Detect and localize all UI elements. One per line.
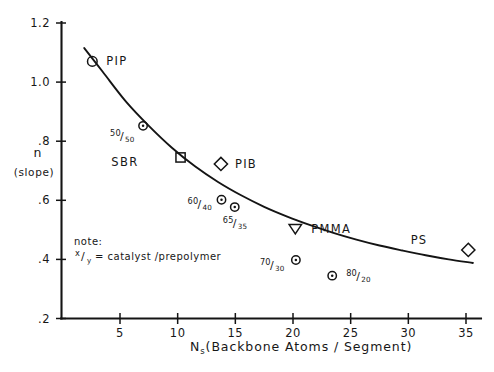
center-dot xyxy=(142,125,145,128)
ratio-slash: / xyxy=(270,259,275,272)
center-dot xyxy=(331,274,334,277)
y-tick-label: 1.0 xyxy=(30,75,50,89)
y-tick-label: .2 xyxy=(38,312,50,326)
ratio-label-65-35: 65/35 xyxy=(223,215,248,231)
ratio-slash: / xyxy=(120,130,125,143)
data-point-60-40 xyxy=(217,196,225,204)
note-ratio-slash: / xyxy=(81,250,86,263)
center-dot xyxy=(220,198,223,201)
point-label-PMMA: PMMA xyxy=(311,222,351,236)
note-ratio-numerator: x xyxy=(75,248,80,258)
annotation-group: SBRPS xyxy=(111,155,427,247)
data-point-65-35 xyxy=(231,203,239,211)
ratio-slash: / xyxy=(197,198,202,211)
y-tick-label: 1.2 xyxy=(30,16,50,30)
diamond-marker xyxy=(214,157,227,170)
data-point-labels: PIPPIBPMMA xyxy=(106,54,351,236)
ratio-slash: / xyxy=(233,217,238,230)
ratio-label-70-30: 70/30 xyxy=(260,257,285,273)
ratio-denominator: 20 xyxy=(361,275,371,284)
x-axis-title-main: N xyxy=(190,339,200,354)
ratio-denominator: 40 xyxy=(202,203,212,212)
note-block: note: x / y = catalyst /prepolymer xyxy=(74,236,222,265)
x-tick-label: 30 xyxy=(401,326,417,340)
x-tick-label: 5 xyxy=(116,326,124,340)
x-tick-label: 35 xyxy=(458,326,474,340)
x-ticklabel-group: 5101520253035 xyxy=(116,326,474,340)
note-heading: note: xyxy=(74,236,102,247)
y-tick-label: .6 xyxy=(38,193,50,207)
y-tick-label: .4 xyxy=(38,252,50,266)
y-axis-subtitle: (slope) xyxy=(14,166,54,178)
ratio-slash: / xyxy=(356,270,361,283)
x-axis-title-rest: (Backbone Atoms / Segment) xyxy=(206,339,413,354)
point-label-PIB: PIB xyxy=(235,157,257,171)
point-label-PIP: PIP xyxy=(106,54,127,68)
data-point-80-20 xyxy=(328,271,336,279)
x-tick-label: 15 xyxy=(228,326,244,340)
ratio-denominator: 35 xyxy=(238,222,248,231)
data-point-PS xyxy=(462,243,475,256)
center-dot xyxy=(234,206,237,209)
annotation-PS: PS xyxy=(411,233,428,247)
ratio-denominator: 50 xyxy=(125,135,135,144)
ratio-denominator: 30 xyxy=(275,264,285,273)
data-point-70-30 xyxy=(292,256,300,264)
note-ratio-denominator: y xyxy=(87,256,92,265)
ratio-label-60-40: 60/40 xyxy=(187,196,212,212)
x-tick-label: 10 xyxy=(170,326,186,340)
y-axis-title: n xyxy=(34,145,43,160)
triangle-down-marker xyxy=(289,225,301,234)
annotation-SBR: SBR xyxy=(111,155,138,169)
x-tick-label: 25 xyxy=(343,326,359,340)
chart-figure: 1.21.0.8.6.4.2 5101520253035 PIPPIBPMMA … xyxy=(0,0,494,372)
ratio-label-80-20: 80/20 xyxy=(346,268,371,284)
data-point-PMMA xyxy=(289,225,301,234)
x-axis-title: Ns(Backbone Atoms / Segment) xyxy=(190,339,412,356)
diamond-marker xyxy=(462,243,475,256)
fitted-curve xyxy=(84,48,473,263)
note-body: = catalyst /prepolymer xyxy=(95,251,222,262)
ratio-label-50-50: 50/50 xyxy=(110,128,135,144)
x-tick-label: 20 xyxy=(285,326,301,340)
center-dot xyxy=(295,259,298,262)
data-point-PIB xyxy=(214,157,227,170)
data-point-50-50 xyxy=(139,122,147,130)
chart-canvas: 1.21.0.8.6.4.2 5101520253035 PIPPIBPMMA … xyxy=(0,0,494,372)
